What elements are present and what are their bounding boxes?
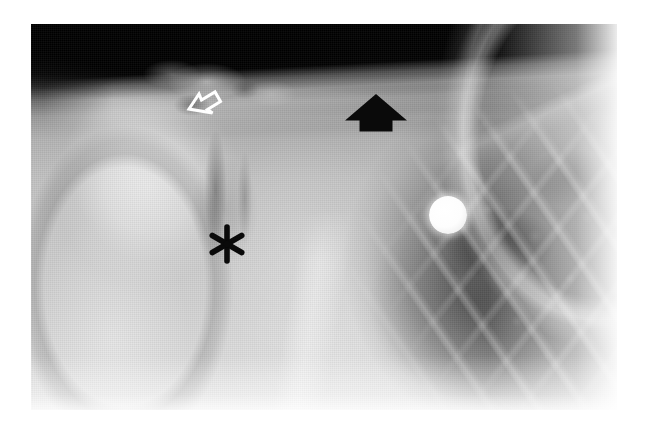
scapula-body [31,24,617,410]
clavicle [31,24,617,410]
glenohumeral-joint-space [31,24,617,410]
acromioclavicular-notch [31,24,617,410]
humeral-shaft [31,24,617,410]
lateral-scapular-border [31,24,617,410]
open-arrow-icon [185,85,229,125]
air-background-region [31,24,617,410]
greater-tuberosity-shadow [31,24,617,410]
ribcage-border [31,24,617,410]
posterior-ribs [31,24,617,410]
radiopaque-disc-icon [429,196,469,236]
pulmonary-vascular-mottle [31,24,617,410]
radiograph-figure [0,0,647,433]
filled-arrow-icon [344,92,408,134]
first-rib-shadows [31,24,617,410]
film-edge-fade [31,24,617,410]
film-base-tone [31,24,617,410]
axillary-soft-tissue-fold [31,24,617,410]
xray-plate [31,24,617,410]
acromion [31,24,617,410]
film-grain [31,24,617,410]
intercostal-lucency [31,24,617,410]
anterior-ribs [31,24,617,410]
lung-field [31,24,617,410]
asterisk-icon [207,223,247,265]
humeral-head [31,24,617,410]
radiopaque-disc-body [429,196,467,234]
